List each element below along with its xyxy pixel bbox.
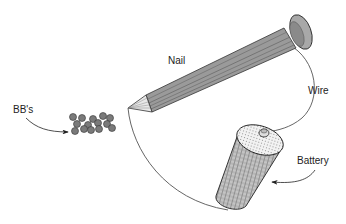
battery-arrow	[272, 170, 315, 183]
bbs-cluster	[70, 113, 116, 135]
battery-label: Battery	[297, 155, 329, 166]
battery	[216, 119, 287, 209]
nail-shaft	[146, 28, 296, 112]
nail	[128, 12, 317, 112]
wire-lower	[128, 108, 228, 210]
bbs-label: BB's	[13, 104, 33, 115]
electromagnet-diagram: Nail Wire BB's Battery	[0, 0, 346, 224]
wire-label: Wire	[308, 85, 329, 96]
bbs-arrow	[26, 118, 68, 132]
nail-label: Nail	[168, 55, 185, 66]
